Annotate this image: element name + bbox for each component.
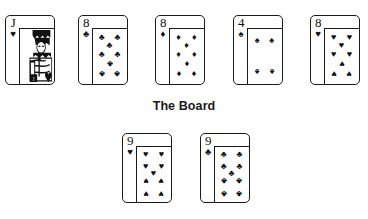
card-pip-clubs-icon: ♣ [221,161,227,170]
board-label: The Board [0,99,368,113]
card-suit-clubs-icon: ♣ [202,147,214,156]
card-pip-hearts-icon: ♥ [339,59,344,68]
card-pip-hearts-icon: ♥ [339,41,344,50]
card-pip-diamonds-icon: ♦ [184,41,189,50]
playing-card: 9♣♣♣♣♣♣♣♣♣♣ [200,133,250,203]
card-pip-clubs-icon: ♣ [221,176,227,185]
card-pip-field: ♥♥♥♥♥♥♥♥ [325,29,358,83]
court-card-artwork: J [20,29,53,83]
playing-card: 9♥♥♥♥♥♥♥♥♥♥ [122,133,172,203]
card-corner-index: 4♠ [235,16,247,38]
playing-card: 8♣♣♣♣♣♣♣♣♣ [78,15,128,85]
card-pip-hearts-icon: ♥ [159,176,164,185]
card-corner-index: J♥ [7,16,19,38]
playing-card: 8♦♦♦♦♦♦♦♦♦ [155,15,205,85]
card-pip-hearts-icon: ♥ [151,168,156,177]
card-pip-clubs-icon: ♣ [221,150,227,159]
card-pip-diamonds-icon: ♦ [192,49,197,58]
card-suit-clubs-icon: ♣ [80,29,92,38]
card-corner-index: 9♥ [124,134,136,156]
card-pip-clubs-icon: ♣ [236,161,242,170]
card-pip-clubs-icon: ♣ [236,150,242,159]
card-pip-diamonds-icon: ♦ [176,49,181,58]
card-pip-diamonds-icon: ♦ [176,69,181,78]
playing-card: J♥ J [5,15,55,85]
card-suit-hearts-icon: ♥ [7,29,19,38]
card-pip-clubs-icon: ♣ [107,41,113,50]
card-pip-clubs-icon: ♣ [236,176,242,185]
card-pip-clubs-icon: ♣ [99,69,105,78]
card-pip-diamonds-icon: ♦ [192,69,197,78]
playing-card: 4♠♠♠♠♠ [233,15,283,85]
card-pip-spades-icon: ♠ [269,67,274,76]
card-pip-field: ♦♦♦♦♦♦♦♦ [170,29,203,83]
card-pip-clubs-icon: ♣ [107,59,113,68]
card-pip-spades-icon: ♠ [255,67,260,76]
playing-card: 8♥♥♥♥♥♥♥♥♥ [310,15,360,85]
card-pip-clubs-icon: ♣ [236,188,242,197]
card-pip-hearts-icon: ♥ [159,188,164,197]
card-corner-index: 8♦ [157,16,169,38]
card-pip-clubs-icon: ♣ [229,168,235,177]
card-suit-hearts-icon: ♥ [124,147,136,156]
card-pip-diamonds-icon: ♦ [184,59,189,68]
card-pip-hearts-icon: ♥ [331,69,336,78]
card-pip-hearts-icon: ♥ [143,176,148,185]
card-pip-hearts-icon: ♥ [331,32,336,41]
card-pip-clubs-icon: ♣ [221,188,227,197]
card-corner-index: 8♣ [80,16,92,38]
card-pip-clubs-icon: ♣ [114,69,120,78]
card-pip-hearts-icon: ♥ [347,32,352,41]
card-pip-hearts-icon: ♥ [143,161,148,170]
card-pip-hearts-icon: ♥ [143,188,148,197]
card-pip-clubs-icon: ♣ [99,49,105,58]
card-figure: J♥ J [0,0,368,219]
card-suit-diamonds-icon: ♦ [157,29,169,38]
card-pip-field: ♣♣♣♣♣♣♣♣ [93,29,126,83]
card-pip-hearts-icon: ♥ [159,150,164,159]
card-pip-spades-icon: ♠ [255,35,260,44]
card-pip-field: ♣♣♣♣♣♣♣♣♣ [215,147,248,201]
card-pip-field: ♠♠♠♠ [248,29,281,83]
card-pip-hearts-icon: ♥ [347,49,352,58]
card-pip-hearts-icon: ♥ [159,161,164,170]
card-suit-hearts-icon: ♥ [312,29,324,38]
card-pip-hearts-icon: ♥ [331,49,336,58]
card-corner-index: 9♣ [202,134,214,156]
card-corner-index: 8♥ [312,16,324,38]
card-pip-clubs-icon: ♣ [114,49,120,58]
card-pip-spades-icon: ♠ [269,35,274,44]
card-pip-field: ♥♥♥♥♥♥♥♥♥ [137,147,170,201]
card-pip-hearts-icon: ♥ [143,150,148,159]
card-pip-diamonds-icon: ♦ [176,32,181,41]
card-pip-clubs-icon: ♣ [99,32,105,41]
card-suit-spades-icon: ♠ [235,29,247,38]
card-pip-clubs-icon: ♣ [114,32,120,41]
card-pip-hearts-icon: ♥ [347,69,352,78]
card-pip-diamonds-icon: ♦ [192,32,197,41]
